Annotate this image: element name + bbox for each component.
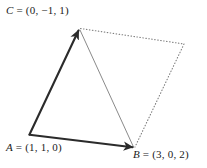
vertex-label-b-equals: = (140, 148, 152, 160)
vertex-label-b-coords: (3, 0, 2) (152, 148, 189, 160)
edge-C-to-D (81, 29, 185, 45)
vertex-label-a-coords: (1, 1, 0) (25, 141, 62, 153)
vertex-label-a-name: A (6, 141, 13, 153)
vertex-label-b: B = (3, 0, 2) (133, 148, 189, 160)
dotted-parallelogram-edges (81, 29, 185, 148)
vertex-label-a: A = (1, 1, 0) (6, 141, 62, 153)
vertex-label-c-name: C (6, 4, 14, 16)
edge-C-to-B-diagonal (80, 30, 134, 147)
vertex-label-b-name: B (133, 148, 140, 160)
edge-A-to-C-vector (30, 31, 79, 135)
vertex-label-c-coords: (0, −1, 1) (26, 4, 69, 16)
vertex-label-c: C = (0, −1, 1) (6, 4, 69, 16)
edge-D-to-B (135, 44, 184, 147)
vertex-label-c-equals: = (14, 4, 26, 16)
vertex-label-a-equals: = (13, 141, 25, 153)
